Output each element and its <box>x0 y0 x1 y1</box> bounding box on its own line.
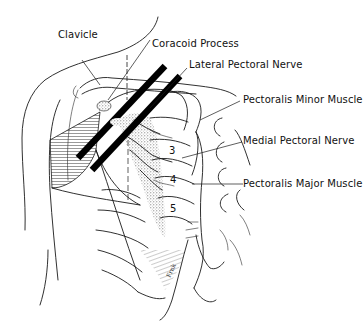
sternum <box>160 132 216 320</box>
label-medial-pectoral-nerve: Medial Pectoral Nerve <box>243 135 354 146</box>
axilla-outline <box>196 230 228 269</box>
rib-number-4: 4 <box>170 175 176 185</box>
label-coracoid-process: Coracoid Process <box>152 38 239 49</box>
label-pectoralis-minor-muscle: Pectoralis Minor Muscle <box>243 94 363 105</box>
rib-number-3: 3 <box>169 146 175 156</box>
label-lateral-pectoral-nerve: Lateral Pectoral Nerve <box>189 59 303 70</box>
costal-hatching <box>140 250 186 290</box>
coracoid-process-shape <box>97 101 111 111</box>
chest-wall-line <box>96 150 140 280</box>
nerve-origin-stipple <box>110 118 126 126</box>
rib-number-5: 5 <box>170 204 176 214</box>
label-clavicle: Clavicle <box>58 29 98 40</box>
label-pectoralis-major-muscle: Pectoralis Major Muscle <box>243 178 362 189</box>
